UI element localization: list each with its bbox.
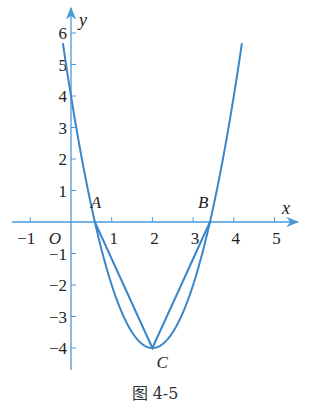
y-tick-label: −2 <box>49 276 67 295</box>
y-tick-label: 6 <box>59 24 68 43</box>
y-tick-label: −3 <box>49 308 67 327</box>
origin-label: O <box>49 229 61 248</box>
figure-plot: −112345−4−3−2−1123456OxyABC <box>0 0 310 378</box>
x-tick-label: 3 <box>191 229 200 248</box>
x-tick-label: 1 <box>109 229 118 248</box>
y-tick-label: 2 <box>59 150 68 169</box>
x-axis-label: x <box>281 198 290 218</box>
point-label-a: A <box>90 193 102 212</box>
x-tick-label: −1 <box>17 229 35 248</box>
parabola-curve <box>63 43 242 348</box>
x-tick-label: 4 <box>232 229 241 248</box>
point-label-b: B <box>198 193 209 212</box>
y-tick-label: 3 <box>59 119 68 138</box>
y-tick-label: 1 <box>59 182 68 201</box>
y-axis-label: y <box>77 10 87 30</box>
y-tick-label: −4 <box>49 339 68 358</box>
x-tick-label: 5 <box>272 229 281 248</box>
point-label-c: C <box>156 353 168 372</box>
figure-caption: 图 4-5 <box>0 380 310 404</box>
x-tick-label: 2 <box>150 229 159 248</box>
y-tick-label: 4 <box>59 87 68 106</box>
